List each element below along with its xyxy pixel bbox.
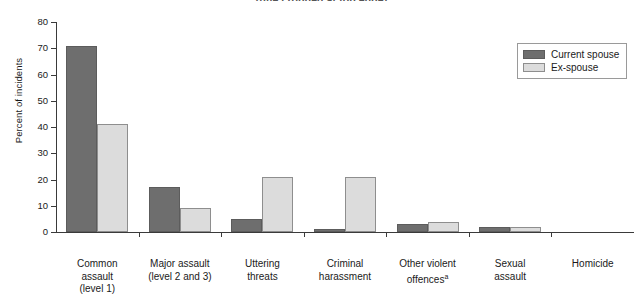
- bar: [510, 227, 541, 232]
- y-tick-10: 10: [51, 206, 56, 207]
- x-category-label: Criminalharassment: [304, 258, 387, 283]
- bar: [345, 177, 376, 232]
- bar-group: [66, 22, 128, 232]
- bar: [262, 177, 293, 232]
- x-category-label-line: (level 1): [56, 283, 139, 296]
- x-tick-5: [469, 232, 470, 237]
- x-category-label-line: Common: [56, 258, 139, 271]
- legend-swatch: [523, 50, 545, 59]
- y-tick-40: 40: [51, 127, 56, 128]
- x-tick-6: [551, 232, 552, 237]
- bar: [97, 124, 128, 232]
- x-tick-3: [304, 232, 305, 237]
- bar-group: [314, 22, 376, 232]
- y-axis-title: Percent of incidents: [13, 21, 24, 181]
- x-category-label-line: Criminal: [304, 258, 387, 271]
- x-category-label: Homicide: [551, 258, 634, 271]
- y-tick-label-80: 80: [37, 16, 48, 27]
- y-tick-80: 80: [51, 22, 56, 23]
- bar: [428, 222, 459, 233]
- x-tick-1: [139, 232, 140, 237]
- bar-group: [149, 22, 211, 232]
- y-tick-label-50: 50: [37, 95, 48, 106]
- y-tick-label-40: 40: [37, 121, 48, 132]
- x-category-label-line: assault: [469, 271, 552, 284]
- x-category-label: Other violentoffencesa: [386, 258, 469, 286]
- bar: [314, 229, 345, 232]
- x-category-label: Commonassault(level 1): [56, 258, 139, 296]
- x-tick-2: [221, 232, 222, 237]
- chart-legend: Current spouseEx-spouse: [517, 43, 627, 79]
- y-tick-label-60: 60: [37, 69, 48, 80]
- x-category-label: Utteringthreats: [221, 258, 304, 283]
- y-tick-label-30: 30: [37, 147, 48, 158]
- bar: [180, 208, 211, 232]
- legend-label: Ex-spouse: [551, 62, 598, 73]
- x-category-label-line: Other violent: [386, 258, 469, 271]
- bar: [149, 187, 180, 232]
- y-tick-label-0: 0: [43, 226, 48, 237]
- x-category-label: Sexualassault: [469, 258, 552, 283]
- y-tick-label-20: 20: [37, 174, 48, 185]
- legend-item: Current spouse: [523, 48, 619, 61]
- legend-swatch: [523, 63, 545, 72]
- x-category-label-line: assault: [56, 271, 139, 284]
- y-tick-label-10: 10: [37, 200, 48, 211]
- legend-item: Ex-spouse: [523, 61, 619, 74]
- y-axis-line: [56, 22, 57, 233]
- x-category-label-line: Homicide: [551, 258, 634, 271]
- x-category-label: Major assault(level 2 and 3): [139, 258, 222, 283]
- footnote-marker: a: [444, 273, 448, 280]
- x-category-label-line: Sexual: [469, 258, 552, 271]
- x-category-label-line: offencesa: [386, 271, 469, 287]
- x-tick-4: [386, 232, 387, 237]
- x-category-label-line: harassment: [304, 271, 387, 284]
- x-category-label-line: Uttering: [221, 258, 304, 271]
- x-category-label-line: Major assault: [139, 258, 222, 271]
- y-tick-20: 20: [51, 180, 56, 181]
- y-tick-70: 70: [51, 48, 56, 49]
- y-tick-0: 0: [51, 232, 56, 233]
- bar: [66, 46, 97, 232]
- bar-group: [397, 22, 459, 232]
- y-tick-30: 30: [51, 153, 56, 154]
- y-tick-60: 60: [51, 75, 56, 76]
- bar: [397, 224, 428, 232]
- y-tick-50: 50: [51, 101, 56, 102]
- x-category-label-line: (level 2 and 3): [139, 271, 222, 284]
- chart-title: (title cropped at top edge): [0, 0, 643, 1]
- x-axis-line: [56, 232, 634, 233]
- bar: [231, 219, 262, 232]
- bar-group: [231, 22, 293, 232]
- x-category-label-line: threats: [221, 271, 304, 284]
- legend-label: Current spouse: [551, 49, 619, 60]
- y-tick-label-70: 70: [37, 42, 48, 53]
- bar: [479, 227, 510, 232]
